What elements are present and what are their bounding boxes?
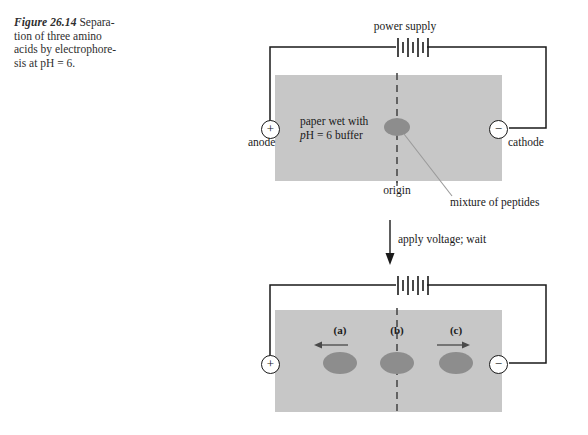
apply-voltage-arrow-head — [386, 253, 395, 265]
top-cathode-negative-terminal: − — [489, 120, 508, 139]
origin-spot — [384, 118, 410, 136]
spot-c-label: (c) — [450, 324, 462, 337]
spot-a — [323, 352, 357, 374]
paper-buffer-label: paper wet with pH = 6 buffer — [300, 114, 368, 142]
bottom-apparatus-group — [262, 276, 546, 414]
top-circuit-wire-right-lower — [509, 120, 546, 128]
transition-arrow-group — [386, 220, 395, 265]
origin-label: origin — [383, 184, 410, 197]
top-anode-positive-terminal: + — [261, 120, 280, 139]
bottom-anode-positive-terminal: + — [261, 355, 280, 374]
spot-a-label: (a) — [334, 324, 347, 337]
spot-b — [380, 352, 414, 374]
top-battery-icon — [398, 38, 428, 57]
spot-b-label: (b) — [390, 324, 403, 337]
power-supply-label: power supply — [374, 20, 436, 33]
cathode-label: cathode — [508, 136, 544, 149]
paper-buffer-line-1: paper wet with — [300, 115, 368, 127]
figure-root: Figure 26.14 Separa- tion of three amino… — [0, 0, 588, 435]
bottom-cathode-negative-terminal: − — [489, 355, 508, 374]
bottom-battery-icon — [398, 276, 428, 295]
apply-voltage-label: apply voltage; wait — [398, 233, 486, 246]
mixture-of-peptides-label: mixture of peptides — [450, 196, 539, 209]
bottom-circuit-wire-right-lower — [509, 355, 546, 363]
spot-c — [439, 352, 473, 374]
paper-buffer-line-2: H = 6 buffer — [306, 129, 363, 141]
